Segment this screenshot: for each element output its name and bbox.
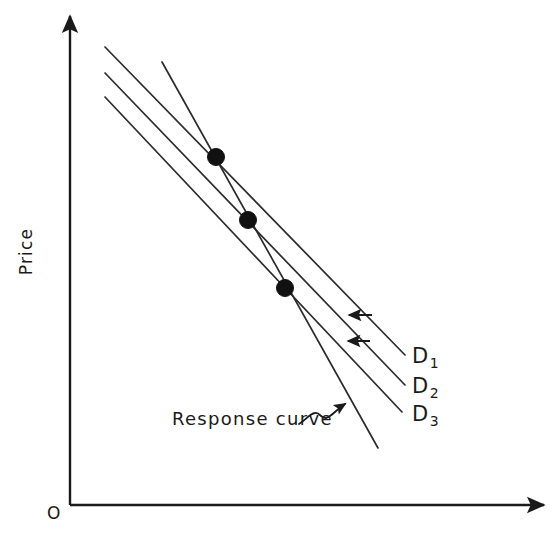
figure-drawing xyxy=(0,0,557,545)
demand-curve-label-d3-base: D xyxy=(412,402,429,426)
origin-label: O xyxy=(47,505,60,522)
demand-curve-label-d1-base: D xyxy=(412,344,429,368)
demand-curve-label-d3-subscript: 3 xyxy=(430,413,439,429)
demand-curve-label-d1-subscript: 1 xyxy=(430,355,439,371)
response-curve-line xyxy=(162,62,378,448)
demand-curve-label-d1: D1 xyxy=(412,346,439,370)
demand-curve-label-d3: D3 xyxy=(412,404,439,428)
y-axis-label: Price xyxy=(18,222,35,282)
demand-curve-label-d2-base: D xyxy=(412,374,429,398)
equilibrium-point-2 xyxy=(240,212,257,229)
figure-canvas: Price O Response curve D1 D2 D3 xyxy=(0,0,557,545)
demand-curve-d3 xyxy=(105,97,402,412)
demand-curve-label-d2: D2 xyxy=(412,376,439,400)
demand-curve-d1 xyxy=(105,47,405,355)
response-curve-label: Response curve xyxy=(172,410,333,428)
equilibrium-point-1 xyxy=(208,149,225,166)
demand-curve-label-d2-subscript: 2 xyxy=(430,385,439,401)
equilibrium-point-3 xyxy=(277,280,294,297)
